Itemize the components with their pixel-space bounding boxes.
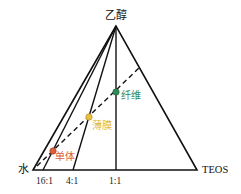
vertex-label-teos: TEOS bbox=[202, 165, 228, 176]
ratio-label-16-1: 16:1 bbox=[36, 177, 53, 187]
point-label-monolith: 单体 bbox=[55, 152, 75, 162]
outer-triangle bbox=[33, 26, 197, 170]
point-label-fiber: 纤维 bbox=[121, 91, 141, 101]
vertex-label-water: 水 bbox=[18, 164, 29, 175]
point-fiber bbox=[113, 89, 119, 95]
ratio-label-1-1: 1:1 bbox=[109, 177, 121, 187]
ratio-label-4-1: 4:1 bbox=[66, 177, 78, 187]
vertex-label-ethanol: 乙醇 bbox=[105, 10, 127, 21]
point-label-film: 薄膜 bbox=[92, 121, 112, 131]
